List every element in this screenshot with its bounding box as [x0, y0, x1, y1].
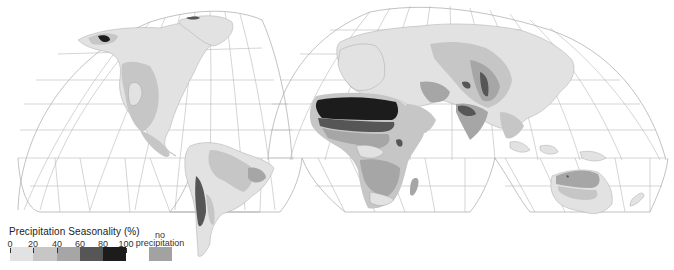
legend-tickmark: [33, 248, 34, 253]
legend-swatch-40-60: [57, 247, 80, 261]
legend-tickmark: [10, 248, 11, 253]
north-america: [78, 16, 233, 157]
no-precipitation-swatch: [149, 247, 172, 261]
legend-swatch-60-80: [80, 247, 103, 261]
legend-swatch-80-100: [103, 247, 126, 261]
legend-title: Precipitation Seasonality (%): [9, 226, 140, 237]
africa: [310, 93, 424, 209]
legend-swatch-20-40: [33, 247, 57, 261]
legend-swatch-0-20: [10, 247, 33, 261]
legend-tickmark: [57, 248, 58, 253]
legend: Precipitation Seasonality (%) 0 20 40 60…: [0, 226, 200, 270]
legend-tickmark: [126, 248, 127, 253]
